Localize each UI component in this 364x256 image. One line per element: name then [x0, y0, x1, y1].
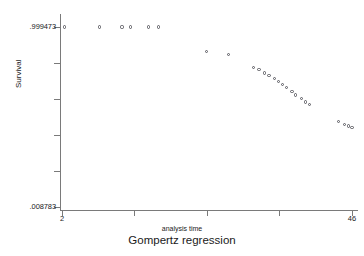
x-axis-tick: [279, 210, 280, 216]
gompertz-regression-chart: .999473 .008783 2 46 Survival analysis t…: [0, 0, 364, 256]
data-point-marker: [267, 74, 270, 77]
data-point-marker: [337, 120, 340, 123]
data-point-marker: [277, 80, 280, 83]
x-axis-tick: [134, 210, 135, 216]
data-point-marker: [257, 68, 260, 71]
data-point-marker: [304, 100, 307, 103]
data-point-marker: [347, 124, 350, 127]
data-point-marker: [273, 77, 276, 80]
x-axis-tick: [207, 210, 208, 216]
data-point-marker: [205, 50, 208, 53]
y-axis-tick: [54, 135, 60, 136]
data-point-marker: [157, 25, 160, 28]
data-point-marker: [63, 25, 66, 28]
data-point-marker: [252, 66, 255, 69]
x-axis-title: analysis time: [0, 225, 364, 233]
y-axis-tick: [54, 171, 60, 172]
y-axis-title: Survival: [14, 60, 23, 88]
data-point-marker: [227, 53, 230, 56]
chart-title: Gompertz regression: [0, 233, 364, 247]
data-point-marker: [120, 25, 123, 28]
data-point-marker: [147, 25, 150, 28]
data-point-marker: [263, 71, 266, 74]
data-point-marker: [300, 97, 303, 100]
x-axis-line: [60, 210, 358, 211]
data-point-marker: [350, 126, 353, 129]
data-point-marker: [343, 123, 346, 126]
y-axis-tick: [54, 63, 60, 64]
data-point-marker: [294, 93, 297, 96]
data-point-marker: [98, 25, 101, 28]
data-point-marker: [129, 25, 132, 28]
y-axis-tick-label-bottom: .008783: [10, 203, 56, 211]
data-point-marker: [285, 86, 288, 89]
x-axis-tick-label-left: 2: [50, 214, 74, 223]
y-axis-tick: [54, 99, 60, 100]
y-axis-tick-label-top: .999473: [10, 23, 56, 31]
data-point-marker: [308, 103, 311, 106]
data-point-marker: [290, 90, 293, 93]
x-axis-tick-label-right: 46: [340, 214, 364, 223]
data-point-marker: [281, 83, 284, 86]
y-axis-line: [60, 14, 61, 210]
